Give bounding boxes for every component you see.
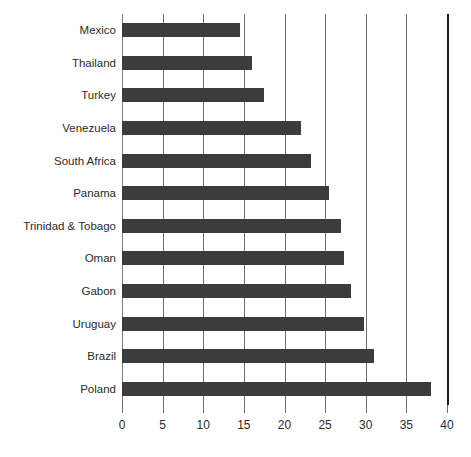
bar-series <box>122 14 447 405</box>
x-tick-mark-30 <box>366 405 367 413</box>
x-tick-label-10: 10 <box>197 418 210 432</box>
category-label-trinidad-tobago: Trinidad & Tobago <box>0 219 116 233</box>
x-tick-label-25: 25 <box>318 418 331 432</box>
category-label-mexico: Mexico <box>0 23 116 37</box>
bar-turkey <box>122 88 264 102</box>
bar-oman <box>122 251 344 265</box>
x-tick-label-40: 40 <box>440 418 453 432</box>
category-label-uruguay: Uruguay <box>0 317 116 331</box>
plot-area <box>122 14 447 405</box>
x-tick-label-15: 15 <box>237 418 250 432</box>
bar-row <box>122 275 447 308</box>
x-axis: 0510152025303540 <box>122 405 447 455</box>
category-label-panama: Panama <box>0 186 116 200</box>
bar-row <box>122 177 447 210</box>
x-tick-mark-40 <box>447 405 448 413</box>
bar-poland <box>122 382 431 396</box>
bar-uruguay <box>122 317 364 331</box>
bar-row <box>122 340 447 373</box>
x-tick-label-5: 5 <box>159 418 166 432</box>
bar-trinidad-tobago <box>122 219 341 233</box>
category-label-poland: Poland <box>0 382 116 396</box>
bar-row <box>122 144 447 177</box>
bar-chart: MexicoThailandTurkeyVenezuelaSouth Afric… <box>0 0 471 457</box>
gridline-40 <box>447 14 449 405</box>
x-tick-mark-10 <box>203 405 204 413</box>
bar-gabon <box>122 284 351 298</box>
x-tick-label-0: 0 <box>119 418 126 432</box>
x-tick-label-30: 30 <box>359 418 372 432</box>
category-label-south-africa: South Africa <box>0 154 116 168</box>
x-tick-mark-25 <box>325 405 326 413</box>
bar-mexico <box>122 23 240 37</box>
bar-thailand <box>122 56 252 70</box>
category-label-brazil: Brazil <box>0 349 116 363</box>
bar-venezuela <box>122 121 301 135</box>
bar-south-africa <box>122 154 311 168</box>
bar-row <box>122 372 447 405</box>
category-label-oman: Oman <box>0 251 116 265</box>
x-tick-mark-15 <box>244 405 245 413</box>
bar-brazil <box>122 349 374 363</box>
bar-row <box>122 47 447 80</box>
bar-row <box>122 79 447 112</box>
category-axis-labels: MexicoThailandTurkeyVenezuelaSouth Afric… <box>0 14 116 405</box>
bar-row <box>122 242 447 275</box>
x-tick-mark-5 <box>163 405 164 413</box>
x-tick-label-20: 20 <box>278 418 291 432</box>
category-label-thailand: Thailand <box>0 56 116 70</box>
bar-panama <box>122 186 329 200</box>
bar-row <box>122 14 447 47</box>
category-label-venezuela: Venezuela <box>0 121 116 135</box>
bar-row <box>122 307 447 340</box>
x-tick-mark-35 <box>406 405 407 413</box>
x-tick-label-35: 35 <box>400 418 413 432</box>
bar-row <box>122 210 447 243</box>
bar-row <box>122 112 447 145</box>
category-label-gabon: Gabon <box>0 284 116 298</box>
x-tick-mark-20 <box>285 405 286 413</box>
category-label-turkey: Turkey <box>0 88 116 102</box>
x-tick-mark-0 <box>122 405 123 413</box>
